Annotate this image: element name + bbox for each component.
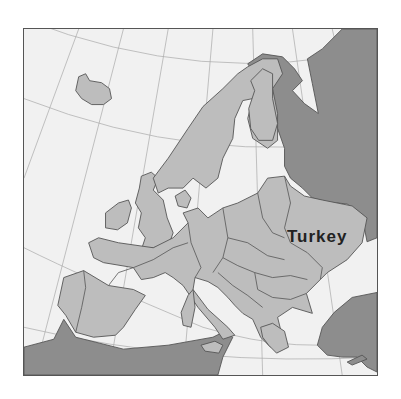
denmark xyxy=(175,190,191,208)
iberia xyxy=(58,271,146,338)
ireland xyxy=(106,200,132,230)
iceland xyxy=(76,74,112,105)
europe-map xyxy=(24,29,377,375)
country-label-turkey: Turkey xyxy=(287,227,348,247)
greece xyxy=(261,323,289,353)
corsica-sardinia xyxy=(181,289,195,327)
continental-europe xyxy=(89,176,367,347)
map-frame: Turkey xyxy=(23,28,378,376)
turkey-anatolia xyxy=(317,292,377,372)
